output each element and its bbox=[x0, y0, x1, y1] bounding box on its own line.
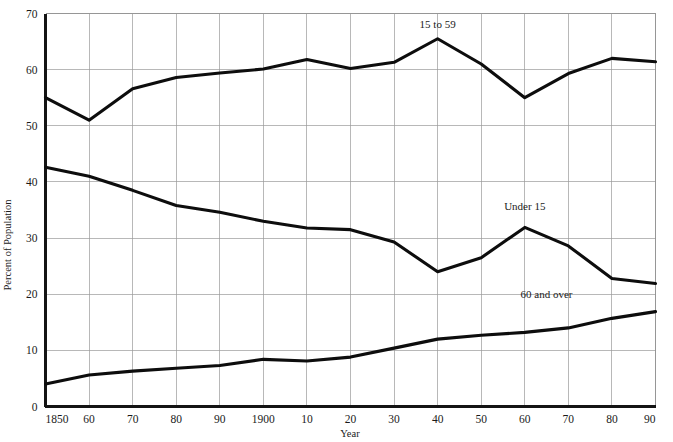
y-axis-title: Percent of Population bbox=[2, 199, 13, 291]
x-tick-label-1910: 10 bbox=[301, 413, 313, 425]
x-tick-label-1900: 1900 bbox=[252, 413, 275, 425]
x-tick-label-1950: 50 bbox=[475, 413, 487, 425]
x-tick-label-1970: 70 bbox=[563, 413, 575, 425]
x-tick-label-1930: 30 bbox=[388, 413, 400, 425]
x-axis-title: Year bbox=[340, 428, 360, 439]
series-annotation-under-15: Under 15 bbox=[504, 200, 546, 212]
x-tick-label-1880: 80 bbox=[170, 413, 182, 425]
y-axis-tick-labels: 010203040506070 bbox=[26, 8, 38, 413]
y-tick-label-20: 20 bbox=[26, 288, 38, 300]
x-tick-label-1850: 1850 bbox=[46, 413, 69, 425]
y-tick-label-60: 60 bbox=[26, 64, 38, 76]
y-tick-label-10: 10 bbox=[26, 344, 38, 356]
x-tick-label-1990: 90 bbox=[644, 413, 656, 425]
x-tick-label-1940: 40 bbox=[432, 413, 444, 425]
x-tick-label-1860: 60 bbox=[83, 413, 95, 425]
x-tick-label-1960: 60 bbox=[519, 413, 531, 425]
chart-figure: 010203040506070 185060708090190010203040… bbox=[0, 0, 673, 442]
x-tick-label-1870: 70 bbox=[127, 413, 139, 425]
series-annotation-60-and-over: 60 and over bbox=[521, 288, 573, 300]
axis-lines bbox=[45, 14, 656, 407]
series-annotation-15-to-59: 15 to 59 bbox=[420, 18, 457, 30]
x-axis-tick-labels: 1850607080901900102030405060708090 bbox=[46, 413, 656, 425]
y-tick-label-70: 70 bbox=[26, 8, 38, 20]
x-tick-label-1980: 80 bbox=[606, 413, 618, 425]
y-tick-label-50: 50 bbox=[26, 120, 38, 132]
y-tick-label-30: 30 bbox=[26, 232, 38, 244]
series-annotations: 15 to 59Under 1560 and over bbox=[420, 18, 573, 301]
y-tick-label-0: 0 bbox=[32, 401, 38, 413]
x-tick-label-1890: 90 bbox=[214, 413, 226, 425]
y-tick-label-40: 40 bbox=[26, 176, 38, 188]
x-tick-label-1920: 20 bbox=[345, 413, 357, 425]
population-age-line-chart: 010203040506070 185060708090190010203040… bbox=[0, 0, 673, 442]
